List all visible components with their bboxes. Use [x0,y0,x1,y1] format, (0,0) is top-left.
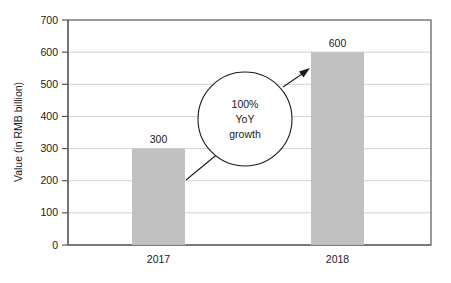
y-tick-label-200: 200 [40,174,58,186]
y-tick-label-0: 0 [52,239,58,251]
y-axis-ticks [62,20,68,245]
bar-2018[interactable] [311,52,364,245]
data-label-2018: 600 [329,37,347,49]
callout-line-2: YoY [236,113,255,125]
y-tick-label-400: 400 [40,110,58,122]
callout-line-3: growth [229,128,261,140]
callout-line-1: 100% [232,98,259,110]
bar-2017[interactable] [132,149,185,245]
y-tick-label-500: 500 [40,78,58,90]
y-tick-label-600: 600 [40,46,58,58]
bar-chart: 700 600 500 400 300 200 100 0 Value (in … [0,0,451,283]
y-tick-label-700: 700 [40,14,58,26]
y-axis-tick-labels: 700 600 500 400 300 200 100 0 [40,14,58,251]
chart-canvas: 700 600 500 400 300 200 100 0 Value (in … [0,0,451,283]
y-tick-label-300: 300 [40,142,58,154]
x-tick-label-2018: 2018 [326,253,350,265]
y-axis-title: Value (in RMB billion) [12,82,24,182]
x-tick-label-2017: 2017 [147,253,171,265]
data-label-2017: 300 [150,133,168,145]
y-tick-label-100: 100 [40,206,58,218]
